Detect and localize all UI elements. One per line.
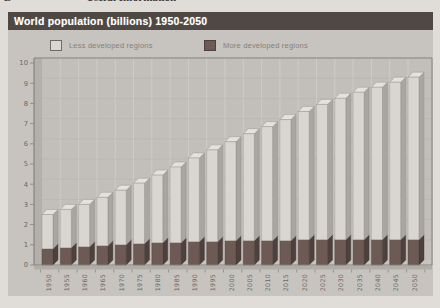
legend-swatch-more-developed-icon bbox=[204, 40, 216, 51]
bar-front-more-developed bbox=[97, 246, 108, 265]
bar-side-less-developed bbox=[401, 77, 406, 240]
bar-side-less-developed bbox=[71, 204, 76, 247]
chart-title-bar: World population (billions) 1950-2050 bbox=[8, 12, 433, 30]
bar-side-more-developed bbox=[419, 235, 424, 265]
y-axis-tick-label: 2 bbox=[24, 221, 28, 229]
bar-front-more-developed bbox=[134, 244, 145, 265]
bar-front-more-developed bbox=[152, 243, 163, 265]
x-axis-tick-label: 2030 bbox=[337, 274, 344, 291]
bar-1970 bbox=[115, 185, 131, 265]
bar-front-more-developed bbox=[280, 241, 291, 265]
bar-front-more-developed bbox=[317, 240, 328, 265]
bar-front-less-developed bbox=[317, 104, 328, 239]
bar-front-less-developed bbox=[97, 197, 108, 245]
bar-1960 bbox=[79, 199, 95, 265]
legend-label-less-developed: Less developed regions bbox=[69, 41, 153, 50]
bar-side-less-developed bbox=[53, 210, 58, 249]
x-axis-tick-label: 1970 bbox=[118, 274, 125, 291]
legend-item-more-developed: More developed regions bbox=[204, 40, 308, 51]
bar-front-more-developed bbox=[335, 240, 346, 265]
bar-2040 bbox=[371, 82, 387, 265]
bar-side-less-developed bbox=[328, 99, 333, 239]
bar-side-less-developed bbox=[236, 137, 241, 241]
bar-side-less-developed bbox=[199, 153, 204, 242]
y-axis-tick-label: 7 bbox=[24, 120, 28, 128]
bar-front-less-developed bbox=[134, 183, 145, 244]
bar-2025 bbox=[317, 99, 333, 265]
bar-front-less-developed bbox=[371, 87, 382, 240]
bar-side-less-developed bbox=[181, 162, 186, 243]
x-axis-tick-label: 1995 bbox=[209, 274, 216, 291]
x-axis-tick-label: 2020 bbox=[301, 274, 308, 291]
bar-side-more-developed bbox=[401, 235, 406, 265]
bar-1965 bbox=[97, 192, 113, 265]
bar-front-more-developed bbox=[243, 241, 254, 265]
bar-2050 bbox=[408, 72, 424, 265]
bar-front-less-developed bbox=[225, 142, 236, 241]
bar-side-more-developed bbox=[382, 235, 387, 265]
legend-item-less-developed: Less developed regions bbox=[50, 40, 153, 51]
bar-2020 bbox=[298, 106, 314, 265]
y-axis-tick-label: 9 bbox=[24, 80, 28, 88]
bar-front-less-developed bbox=[298, 111, 309, 239]
bar-front-less-developed bbox=[353, 92, 364, 239]
bar-side-less-developed bbox=[346, 93, 351, 239]
chart-panel: Less developed regions More developed re… bbox=[8, 30, 433, 296]
bar-front-less-developed bbox=[42, 215, 53, 249]
bar-front-less-developed bbox=[408, 77, 419, 240]
bar-side-more-developed bbox=[309, 235, 314, 265]
x-axis-tick-label: 2015 bbox=[282, 274, 289, 291]
bar-side-more-developed bbox=[364, 235, 369, 265]
bar-front-less-developed bbox=[170, 167, 181, 243]
x-axis-tick-label: 2045 bbox=[392, 274, 399, 291]
bar-front-less-developed bbox=[152, 175, 163, 243]
bar-front-more-developed bbox=[390, 240, 401, 265]
y-axis-tick-label: 3 bbox=[24, 201, 28, 209]
x-axis-tick-label: 2040 bbox=[374, 274, 381, 291]
bar-front-less-developed bbox=[390, 82, 401, 240]
bar-2005 bbox=[243, 129, 259, 265]
bar-front-more-developed bbox=[188, 242, 199, 265]
bar-front-more-developed bbox=[115, 245, 126, 265]
plot-left-wall bbox=[34, 58, 42, 265]
bar-side-less-developed bbox=[364, 87, 369, 239]
bar-side-less-developed bbox=[218, 145, 223, 242]
y-axis-tick-label: 0 bbox=[24, 261, 28, 269]
y-axis-tick-label: 10 bbox=[19, 59, 28, 67]
x-axis-tick-label: 1960 bbox=[81, 274, 88, 291]
bar-front-more-developed bbox=[262, 241, 273, 265]
x-axis-tick-label: 2025 bbox=[319, 274, 326, 291]
bar-side-less-developed bbox=[273, 122, 278, 241]
bar-front-less-developed bbox=[60, 209, 71, 247]
bar-front-more-developed bbox=[225, 241, 236, 265]
y-axis-tick-label: 5 bbox=[24, 160, 28, 168]
bar-side-less-developed bbox=[254, 129, 259, 241]
bar-1980 bbox=[152, 170, 168, 265]
x-axis-tick-label: 1965 bbox=[99, 274, 106, 291]
y-axis-tick-label: 4 bbox=[24, 181, 28, 189]
x-axis-tick-label: 2010 bbox=[264, 274, 271, 291]
x-axis-tick-label: 2035 bbox=[356, 274, 363, 291]
bar-1985 bbox=[170, 162, 186, 265]
x-axis-tick-label: 1980 bbox=[154, 274, 161, 291]
bar-1990 bbox=[188, 153, 204, 265]
bar-1975 bbox=[134, 178, 150, 265]
bar-front-less-developed bbox=[335, 98, 346, 239]
bar-side-less-developed bbox=[163, 170, 168, 243]
bar-2045 bbox=[390, 77, 406, 265]
bar-front-less-developed bbox=[79, 204, 90, 246]
bar-front-less-developed bbox=[280, 120, 291, 241]
legend-label-more-developed: More developed regions bbox=[223, 41, 308, 50]
bar-front-more-developed bbox=[298, 240, 309, 265]
bar-front-more-developed bbox=[207, 242, 218, 265]
bar-front-less-developed bbox=[188, 158, 199, 242]
bar-front-more-developed bbox=[170, 243, 181, 265]
plot-floor bbox=[34, 266, 432, 270]
bar-side-less-developed bbox=[309, 106, 314, 239]
x-axis-tick-label: 1950 bbox=[45, 274, 52, 291]
x-axis-tick-label: 2005 bbox=[246, 274, 253, 291]
bar-front-more-developed bbox=[60, 248, 71, 265]
x-axis-tick-label: 1975 bbox=[136, 274, 143, 291]
bar-1995 bbox=[207, 145, 223, 265]
x-axis-tick-label: 2000 bbox=[228, 274, 235, 291]
